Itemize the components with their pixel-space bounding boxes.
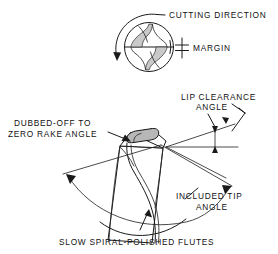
label-slow-spiral: SLOW SPIRAL-POLISHED FLUTES <box>59 237 214 247</box>
lip-clearance-leader-left <box>208 114 215 127</box>
tip-angle-leg-right <box>161 145 232 186</box>
lip-clearance-arrow-up <box>212 126 218 133</box>
rotation-arrowhead <box>113 52 121 61</box>
rotation-arc <box>116 14 157 57</box>
lip-clearance-leader-down <box>232 113 245 131</box>
label-included-tip-line2: ANGLE <box>196 202 228 212</box>
label-margin: MARGIN <box>193 43 231 53</box>
lip-clearance-arrow-top <box>222 117 229 124</box>
drill-geometry-figure: CUTTING DIRECTION MARGIN LIP CLEARANCE A… <box>0 0 278 254</box>
margin-dimension-icon <box>176 38 189 58</box>
label-lip-clearance-line2: ANGLE <box>196 102 228 112</box>
label-included-tip-line1: INCLUDED TIP <box>176 191 242 201</box>
tip-angle-arrowhead-left <box>66 174 76 184</box>
technical-drawing-canvas: CUTTING DIRECTION MARGIN LIP CLEARANCE A… <box>0 0 278 254</box>
rotation-arrow-icon <box>113 14 157 61</box>
drill-cross-section-group <box>125 23 174 72</box>
cutting-direction-leader <box>157 15 165 16</box>
label-cutting-direction: CUTTING DIRECTION <box>169 10 267 20</box>
label-dubbed-off-line2: ZERO RAKE ANGLE <box>8 129 97 139</box>
lip-clearance-upper-leg <box>166 124 235 147</box>
drill-tip-perspective-group <box>100 128 186 243</box>
label-dubbed-off-line1: DUBBED-OFF TO <box>14 118 91 128</box>
lip-clearance-leader-tick <box>239 108 245 113</box>
label-lip-clearance-line1: LIP CLEARANCE <box>181 92 256 102</box>
